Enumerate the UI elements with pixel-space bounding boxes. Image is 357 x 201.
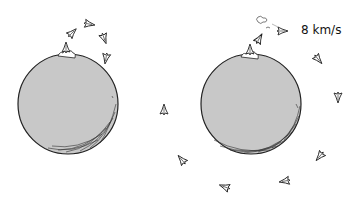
rocket-on-pad-left <box>62 42 70 53</box>
exhaust-cloud <box>257 16 279 28</box>
left-planet <box>18 54 118 154</box>
rocket-on-pad-right <box>246 44 254 55</box>
right-planet <box>201 54 301 154</box>
speed-label: 8 km/s <box>301 23 341 37</box>
